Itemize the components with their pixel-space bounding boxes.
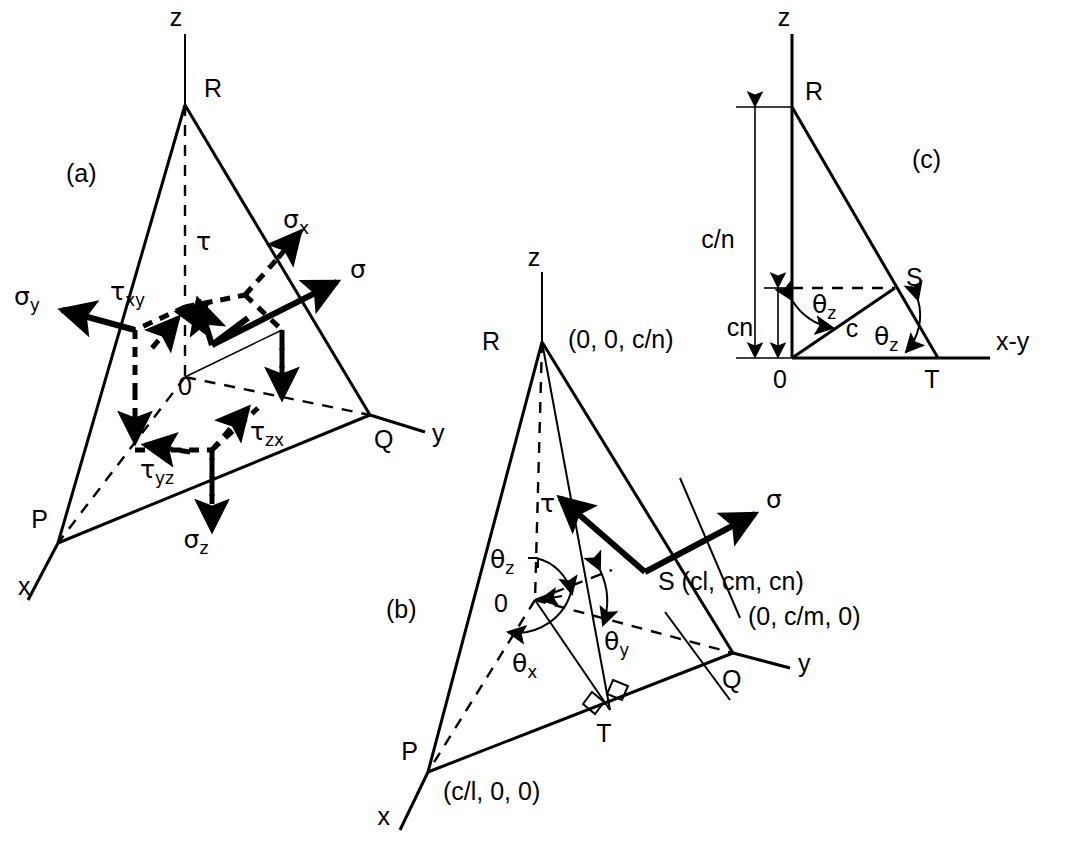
panel-a-sigma-label: σ — [350, 255, 366, 284]
panel-b-coord-Q: (0, c/m, 0) — [748, 602, 861, 630]
panel-c-vertex-T-label: T — [924, 365, 939, 393]
panel-a-vertex-Q-label: Q — [374, 425, 393, 453]
panel-a-tau-yz-label: τyz — [140, 455, 174, 488]
panel-b-theta-z-label: θz — [490, 545, 514, 578]
panel-c-z-axis-label: z — [778, 3, 791, 31]
panel-c-xy-axis-label: x-y — [996, 327, 1030, 355]
panel-c-dim-label-cn: cn — [727, 313, 753, 341]
panel-a-sigma-arrow — [212, 282, 337, 345]
panel-b-vertex-P-label: P — [401, 737, 418, 765]
panel-a-z-axis-label: z — [170, 3, 183, 31]
panel-b-coord-R: (0, 0, c/n) — [568, 325, 674, 353]
panel-c-origin-label: 0 — [773, 365, 787, 393]
panel-a-hidden-edge-OQ — [185, 377, 370, 415]
panel-a-tau-yz-arrow — [145, 445, 190, 452]
panel-a-vertex-R-label: R — [204, 74, 222, 102]
panel-b-y-axis-label: y — [798, 649, 811, 677]
panel-c-vertex-S-label: S — [906, 263, 923, 291]
panel-b-origin-label: 0 — [494, 589, 508, 617]
panel-a-sigma-x-label: σx — [283, 205, 309, 238]
panel-b-z-axis-label: z — [528, 243, 541, 271]
panel-b-coord-P: (c/l, 0, 0) — [443, 777, 540, 805]
panel-a-tau-xy-arrow — [178, 312, 213, 318]
panel-b-tau-arrow — [560, 498, 645, 572]
panel-a-sigma-y-label: σy — [14, 282, 40, 315]
panel-a-tau-label: τ — [196, 227, 211, 256]
panel-b-theta-x-label: θx — [512, 649, 537, 682]
panel-a-x-axis-label: x — [18, 572, 31, 600]
panel-b-coord-S: S (cl, cm, cn) — [658, 567, 804, 595]
panel-a-sigma-x-arrow — [278, 232, 300, 258]
panel-a-tau-arrow — [198, 300, 212, 345]
panel-b-theta-y-ref-line — [535, 570, 612, 600]
panel-a-tag: (a) — [66, 159, 97, 187]
panel-b-vertex-T-label: T — [596, 719, 611, 747]
panel-a-y-axis-label: y — [432, 419, 445, 447]
panel-a: z R P Q x y 0 (a) σ σx σy σz τ τxy τyz τ… — [14, 3, 445, 600]
panel-a-cube-edge-top-right — [185, 295, 245, 307]
panel-b-x-axis-label: x — [378, 802, 391, 830]
panel-a-edge-RQ — [185, 105, 370, 415]
panel-a-tau-xy-diagonal-arrow — [152, 318, 178, 348]
panel-b-x-axis — [400, 772, 428, 830]
panel-a-tau-xy-label: τxy — [110, 277, 145, 310]
panel-b-theta-z-arc — [536, 558, 572, 594]
panel-b-y-axis — [733, 653, 790, 668]
panel-a-sigma-x-stem — [245, 258, 278, 295]
panel-a-x-axis — [28, 543, 58, 600]
panel-b-tau-label: τ — [540, 489, 555, 518]
panel-b: z R P Q T 0 x y (b) (0, 0, c/n) (c/l, 0,… — [378, 243, 861, 830]
panel-c-vertex-R-label: R — [805, 77, 823, 105]
panel-a-tau-zx-arrow — [212, 408, 248, 450]
panel-b-tag: (b) — [386, 595, 417, 623]
panel-b-edge-RP — [428, 342, 542, 772]
panel-a-origin-label: 0 — [178, 372, 192, 400]
panel-b-vertex-R-label: R — [482, 327, 500, 355]
panel-a-vertex-P-label: P — [31, 505, 48, 533]
panel-b-vertex-Q-label: Q — [722, 665, 741, 693]
panel-c-tag: (c) — [912, 145, 941, 173]
panel-c: z R S T 0 x-y (c) c/n cn c θz θz — [701, 3, 1030, 393]
figure-canvas: z R P Q x y 0 (a) σ σx σy σz τ τxy τyz τ… — [0, 0, 1068, 868]
figure-root: z R P Q x y 0 (a) σ σx σy σz τ τxy τyz τ… — [0, 0, 1068, 868]
panel-b-sigma-plane-trace-2 — [665, 612, 730, 700]
panel-b-sigma-label: σ — [766, 485, 782, 514]
panel-c-theta-z-label-origin: θz — [812, 290, 836, 323]
panel-b-hidden-edge-OP — [428, 600, 535, 772]
panel-b-theta-x-arc — [508, 588, 572, 633]
panel-b-theta-y-label: θy — [604, 627, 629, 660]
panel-b-edge-PQ — [428, 653, 733, 772]
panel-a-sigma-z-label: σz — [184, 525, 209, 558]
panel-c-theta-z-label-T: θz — [874, 322, 898, 355]
panel-a-tau-zx-label: τzx — [250, 417, 284, 450]
panel-c-dim-label-c: c — [846, 314, 859, 342]
panel-c-dim-label-c-over-n: c/n — [701, 225, 734, 253]
